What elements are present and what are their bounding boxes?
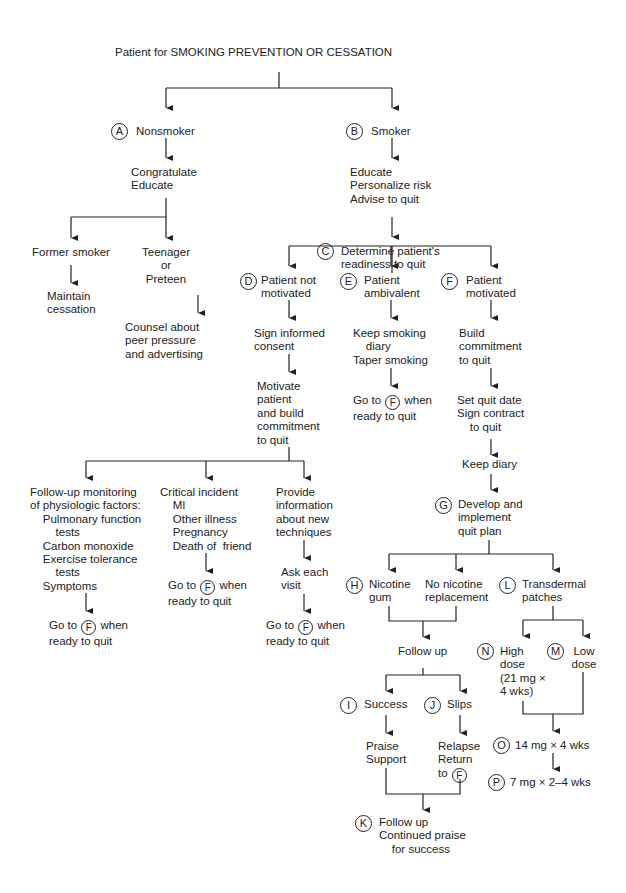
node-success: Success [364, 698, 407, 711]
node-goto-f-3: Go to F when ready to quit [266, 619, 345, 648]
node-nicotine-gum: Nicotine gum [369, 578, 411, 605]
badge-o: O [493, 737, 510, 754]
badge-k: K [355, 815, 372, 832]
node-determine-readiness: Determine patient's readiness to quit [341, 245, 440, 272]
ref-badge-f: F [385, 395, 400, 410]
node-ambivalent: Patient ambivalent [364, 274, 420, 301]
node-motivated: Patient motivated [466, 274, 516, 301]
node-goto-f-4: Go to F when ready to quit [353, 394, 432, 423]
ref-badge-f: F [200, 580, 215, 595]
node-sign-consent: Sign informed consent [254, 327, 325, 354]
node-relapse: Relapse Return to F [438, 740, 480, 783]
badge-p: P [488, 774, 505, 791]
node-provide-information: Provide information about new techniques [276, 486, 333, 540]
badge-m: M [547, 643, 564, 660]
badge-j: J [424, 697, 441, 714]
node-ask-each-visit: Ask each visit [281, 566, 328, 593]
flowchart: Patient for SMOKING PREVENTION OR CESSAT… [0, 0, 626, 893]
node-not-motivated: Patient not motivated [261, 274, 316, 301]
node-low-dose: Low dose [568, 645, 600, 672]
node-smoker: Smoker [371, 125, 411, 138]
node-critical-incident: Critical incident MI Other illness Pregn… [160, 486, 251, 553]
badge-e: E [340, 273, 357, 290]
ref-badge-f: F [298, 620, 313, 635]
node-build-commitment: Build commitment to quit [459, 327, 522, 367]
node-former-smoker: Former smoker [32, 246, 110, 259]
node-counsel: Counsel about peer pressure and advertis… [125, 321, 203, 361]
badge-d: D [240, 273, 257, 290]
title: Patient for SMOKING PREVENTION OR CESSAT… [115, 46, 392, 59]
node-transdermal: Transdermal patches [522, 578, 586, 605]
badge-l: L [499, 577, 516, 594]
node-set-quit-date: Set quit date Sign contract to quit [457, 394, 524, 434]
node-nonsmoker: Nonsmoker [136, 125, 195, 138]
node-no-nicotine: No nicotine replacement [425, 578, 488, 605]
node-7mg: 7 mg × 2–4 wks [510, 776, 591, 789]
node-14mg: 14 mg × 4 wks [515, 739, 589, 752]
badge-g: G [435, 497, 452, 514]
badge-n: N [477, 643, 494, 660]
node-motivate-patient: Motivate patient and build commitment to… [257, 380, 320, 447]
node-praise-support: Praise Support [366, 740, 406, 767]
node-develop-plan: Develop and implement quit plan [458, 498, 523, 538]
node-keep-diary: Keep diary [462, 458, 517, 471]
ref-badge-f: F [81, 620, 96, 635]
node-teenager: Teenager or Preteen [135, 246, 197, 286]
node-continued-praise: Follow up Continued praise for success [379, 816, 466, 856]
node-goto-f-1: Go to F when ready to quit [49, 619, 128, 648]
node-goto-f-2: Go to F when ready to quit [168, 579, 247, 608]
badge-c: C [317, 243, 334, 260]
badge-a: A [111, 123, 128, 140]
badge-b: B [346, 123, 363, 140]
badge-f: F [441, 273, 458, 290]
badge-i: I [340, 697, 357, 714]
node-follow-up: Follow up [398, 645, 447, 658]
ref-badge-f: F [452, 768, 467, 783]
node-slips: Slips [447, 698, 472, 711]
node-smoking-diary: Keep smoking diary Taper smoking [353, 327, 428, 367]
node-congratulate: Congratulate Educate [131, 166, 197, 193]
badge-h: H [346, 577, 363, 594]
node-follow-up-monitoring: Follow-up monitoring of physiologic fact… [30, 486, 141, 593]
node-educate-personalize: Educate Personalize risk Advise to quit [350, 166, 431, 206]
node-high-dose: High dose (21 mg × 4 wks) [500, 645, 546, 699]
node-maintain-cessation: Maintain cessation [47, 290, 96, 317]
